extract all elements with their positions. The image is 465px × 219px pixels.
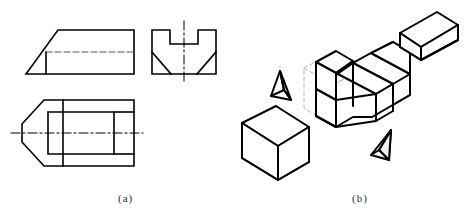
removed-cube (242, 106, 309, 180)
side-view-chamfer-right (197, 52, 216, 74)
wedge-right (371, 130, 391, 160)
front-view (26, 30, 134, 74)
main-body (316, 42, 410, 127)
removed-bar (400, 12, 458, 60)
side-view (152, 21, 216, 83)
wedge-left (271, 71, 291, 100)
main-body-bottom-chamfer (336, 94, 376, 127)
figure-root: (a) (b) (0, 0, 465, 219)
caption-b: (b) (352, 192, 368, 204)
side-view-chamfer-left (152, 52, 171, 74)
caption-a: (a) (118, 192, 133, 204)
top-view (11, 100, 143, 166)
orthographic-views-group (11, 21, 216, 166)
exploded-isometric-group (242, 12, 458, 180)
technical-drawing-canvas (0, 0, 465, 219)
